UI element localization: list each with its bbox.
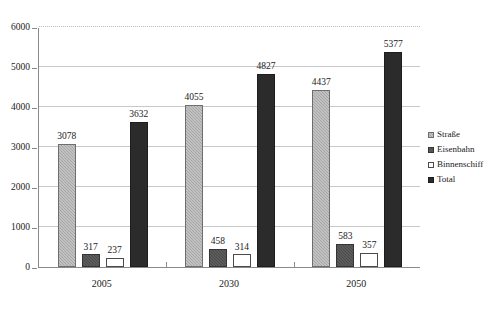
bar-slot: 317 [82,28,100,267]
bar [384,52,402,267]
legend-item: Eisenbahn [428,145,483,154]
bar [336,244,354,267]
x-axis-tick-mark [294,262,295,267]
y-axis-tick-mark [32,148,37,149]
bar-group: 30783172373632 [39,28,166,267]
y-axis-tick-mark [32,188,37,189]
x-axis-tick-label: 2030 [219,278,239,289]
bar [312,90,330,267]
y-axis-tick-label: 2000 [11,183,30,193]
bar [209,249,227,267]
bar-slot: 4827 [257,28,275,267]
legend-swatch-icon [428,132,434,138]
bar-value-label: 314 [235,243,249,253]
x-axis-tick-label: 2005 [92,278,112,289]
plot-area: 3078317237363240554583144827443758335753… [38,28,420,268]
x-axis-tick-mark [166,262,167,267]
bar-value-label: 237 [108,246,122,256]
bar-slot: 3078 [58,28,76,267]
bar-value-label: 3078 [57,132,76,142]
bar [82,254,100,267]
legend-item-label: Binnenschiff [437,160,483,169]
bar-chart: 0100020003000400050006000 30783172373632… [0,0,504,319]
bar-slot: 357 [360,28,378,267]
legend-item-label: Eisenbahn [437,145,475,154]
y-axis-tick-label: 1000 [11,223,30,233]
bar-slot: 3632 [130,28,148,267]
y-axis-tick-mark [32,228,37,229]
bar-slot: 4055 [185,28,203,267]
bar-slot: 5377 [384,28,402,267]
legend: StraßeEisenbahnBinnenschiffTotal [428,130,483,190]
legend-swatch-icon [428,177,434,183]
bar-slot: 458 [209,28,227,267]
bar-cluster: 44375833575377 [294,28,421,267]
y-axis-tick-mark [32,28,37,29]
bar-group: 44375833575377 [294,28,421,267]
bar-slot: 314 [233,28,251,267]
bar-value-label: 3632 [129,110,148,120]
bar-group: 40554583144827 [166,28,293,267]
legend-item: Total [428,175,483,184]
y-axis-tick-label: 6000 [11,23,30,33]
y-axis-tick-label: 3000 [11,143,30,153]
legend-swatch-icon [428,147,434,153]
y-axis-tick-mark [32,268,37,269]
bar-value-label: 4827 [256,62,275,72]
y-axis-tick-label: 0 [25,263,30,273]
legend-item: Straße [428,130,483,139]
gridline [39,26,420,27]
legend-item: Binnenschiff [428,160,483,169]
bar-value-label: 458 [211,237,225,247]
legend-item-label: Straße [437,130,460,139]
bar [130,122,148,267]
bar-value-label: 583 [338,232,352,242]
y-axis-tick-mark [32,68,37,69]
bar-value-label: 4055 [184,93,203,103]
bar [106,258,124,267]
bar-value-label: 317 [84,243,98,253]
bar [58,144,76,267]
x-axis-tick-label: 2050 [346,278,366,289]
y-axis-tick-label: 4000 [11,103,30,113]
bar-cluster: 30783172373632 [39,28,166,267]
bar-value-label: 357 [362,241,376,251]
bar-value-label: 5377 [384,40,403,50]
bar [360,253,378,267]
y-axis: 0100020003000400050006000 [0,28,36,268]
legend-item-label: Total [437,175,455,184]
bar-value-label: 4437 [312,78,331,88]
legend-swatch-icon [428,162,434,168]
bar [233,254,251,267]
bar-slot: 237 [106,28,124,267]
bar-cluster: 40554583144827 [166,28,293,267]
bar-slot: 583 [336,28,354,267]
bar [185,105,203,267]
bar-slot: 4437 [312,28,330,267]
bar [257,74,275,267]
y-axis-tick-mark [32,108,37,109]
y-axis-tick-label: 5000 [11,63,30,73]
